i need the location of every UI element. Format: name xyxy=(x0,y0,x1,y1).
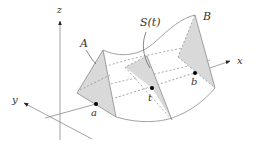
y-axis-label: y xyxy=(11,94,18,105)
point-b-label: b xyxy=(191,76,197,87)
point-a-label: a xyxy=(91,107,97,118)
x-axis-label: x xyxy=(237,55,243,66)
point-b xyxy=(193,71,197,75)
label-B: B xyxy=(202,10,211,23)
y-axis xyxy=(24,103,92,139)
x-axis-solid-right xyxy=(210,61,230,68)
solid-cross-section-diagram: z y x A B S(t) a t b xyxy=(0,0,258,146)
z-axis-label: z xyxy=(56,5,62,15)
point-t xyxy=(150,86,154,90)
label-St: S(t) xyxy=(140,16,161,29)
leader-a xyxy=(86,50,96,64)
label-A: A xyxy=(79,37,88,50)
point-a xyxy=(94,102,98,106)
x-axis-solid-left xyxy=(45,104,96,118)
